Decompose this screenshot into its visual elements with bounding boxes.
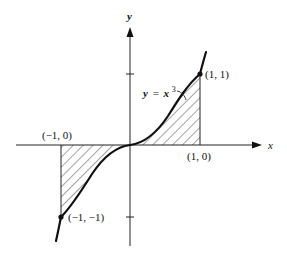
y-axis-arrow-icon — [127, 27, 134, 37]
cubic-area-diagram: y x y = x 3 (1, 1) (−1, −1) (−1, 0) (1, … — [0, 0, 287, 259]
curve-label: y = x 3 — [141, 85, 176, 99]
point-1-1 — [197, 71, 202, 76]
x-axis-arrow-icon — [252, 142, 262, 149]
y-axis-label: y — [125, 10, 132, 22]
label-minus1-0: (−1, 0) — [42, 129, 72, 142]
label-1-0: (1, 0) — [187, 150, 211, 163]
x-axis-label: x — [267, 139, 273, 151]
label-point-minus1-minus1: (−1, −1) — [68, 211, 105, 224]
point-minus1-minus1 — [58, 214, 63, 219]
label-point-1-1: (1, 1) — [205, 68, 229, 81]
